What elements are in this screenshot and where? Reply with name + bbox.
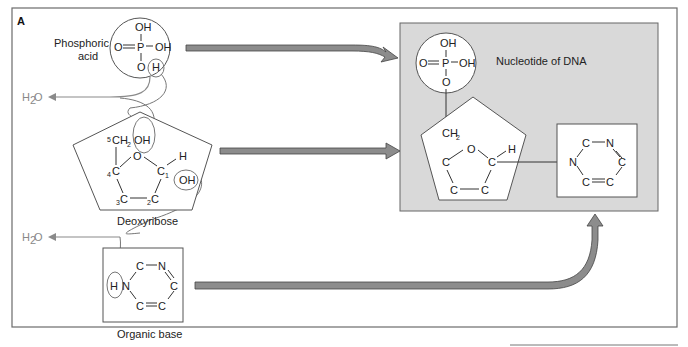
svg-text:O: O xyxy=(467,143,476,155)
svg-text:4: 4 xyxy=(107,171,111,178)
svg-text:2: 2 xyxy=(456,134,460,141)
svg-text:C: C xyxy=(450,184,458,196)
svg-text:N: N xyxy=(158,260,166,272)
organic-base-label: Organic base xyxy=(117,328,182,340)
phosphoric-acid-label-2: acid xyxy=(78,50,98,62)
svg-text:O: O xyxy=(133,150,142,162)
svg-text:OH: OH xyxy=(440,37,457,49)
svg-text:H: H xyxy=(110,280,118,292)
svg-text:C: C xyxy=(157,165,165,177)
svg-text:C: C xyxy=(136,300,144,312)
svg-text:OH: OH xyxy=(134,134,151,146)
svg-text:H: H xyxy=(179,150,187,162)
svg-text:OH: OH xyxy=(155,41,172,53)
svg-text:5: 5 xyxy=(107,136,111,143)
svg-text:O: O xyxy=(34,91,43,103)
svg-text:C: C xyxy=(582,137,590,149)
nucleotide-title: Nucleotide of DNA xyxy=(496,55,587,67)
svg-text:P: P xyxy=(442,57,449,69)
svg-text:C: C xyxy=(606,176,614,188)
svg-text:H: H xyxy=(22,91,30,103)
svg-text:N: N xyxy=(569,156,577,168)
svg-text:OH: OH xyxy=(135,21,152,33)
svg-text:OH: OH xyxy=(179,174,196,186)
svg-text:C: C xyxy=(170,280,178,292)
svg-text:P: P xyxy=(137,41,144,53)
dna-nucleotide-diagram: A Nucleotide of DNA OH O P OH O CH 2 O C… xyxy=(0,0,688,347)
svg-text:H: H xyxy=(508,143,516,155)
panel-label: A xyxy=(17,15,25,27)
svg-text:C: C xyxy=(112,165,120,177)
svg-text:C: C xyxy=(151,193,159,205)
svg-text:O: O xyxy=(419,57,428,69)
svg-text:C: C xyxy=(582,176,590,188)
deoxyribose-label: Deoxyribose xyxy=(117,215,178,227)
svg-text:O: O xyxy=(442,76,451,88)
svg-text:C: C xyxy=(158,300,166,312)
svg-text:C: C xyxy=(618,156,626,168)
svg-text:C: C xyxy=(120,193,128,205)
phosphoric-acid-label-1: Phosphoric xyxy=(54,37,110,49)
svg-text:OH: OH xyxy=(459,57,476,69)
svg-text:CH: CH xyxy=(112,134,128,146)
svg-text:C: C xyxy=(136,260,144,272)
svg-text:C: C xyxy=(488,156,496,168)
svg-text:N: N xyxy=(122,280,130,292)
svg-text:H: H xyxy=(22,231,30,243)
svg-text:2: 2 xyxy=(127,141,131,148)
nucleotide-base: C N N C C C xyxy=(557,124,637,197)
svg-text:1: 1 xyxy=(165,172,169,179)
svg-text:N: N xyxy=(606,137,614,149)
svg-text:O: O xyxy=(34,231,43,243)
svg-text:H: H xyxy=(152,61,160,73)
svg-text:C: C xyxy=(481,184,489,196)
svg-text:C: C xyxy=(442,156,450,168)
svg-text:O: O xyxy=(114,41,123,53)
svg-text:O: O xyxy=(137,61,146,73)
